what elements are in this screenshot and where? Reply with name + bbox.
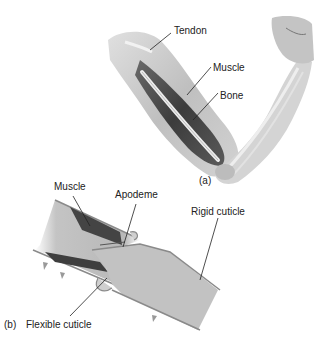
arm-illustration [108, 16, 314, 184]
label-flexible-cuticle: Flexible cuticle [26, 320, 92, 330]
label-bone: Bone [220, 91, 243, 101]
label-muscle-arm: Muscle [213, 63, 245, 73]
panel-label-a: (a) [199, 176, 211, 186]
figure: Tendon Muscle Bone (a) Muscle Apodeme Ri… [0, 0, 327, 344]
label-apodeme: Apodeme [115, 190, 158, 200]
label-muscle-joint: Muscle [54, 182, 86, 192]
label-rigid-cuticle: Rigid cuticle [191, 207, 245, 217]
figure-illustration [0, 0, 327, 344]
label-tendon: Tendon [174, 26, 207, 36]
panel-label-b: (b) [4, 320, 16, 330]
